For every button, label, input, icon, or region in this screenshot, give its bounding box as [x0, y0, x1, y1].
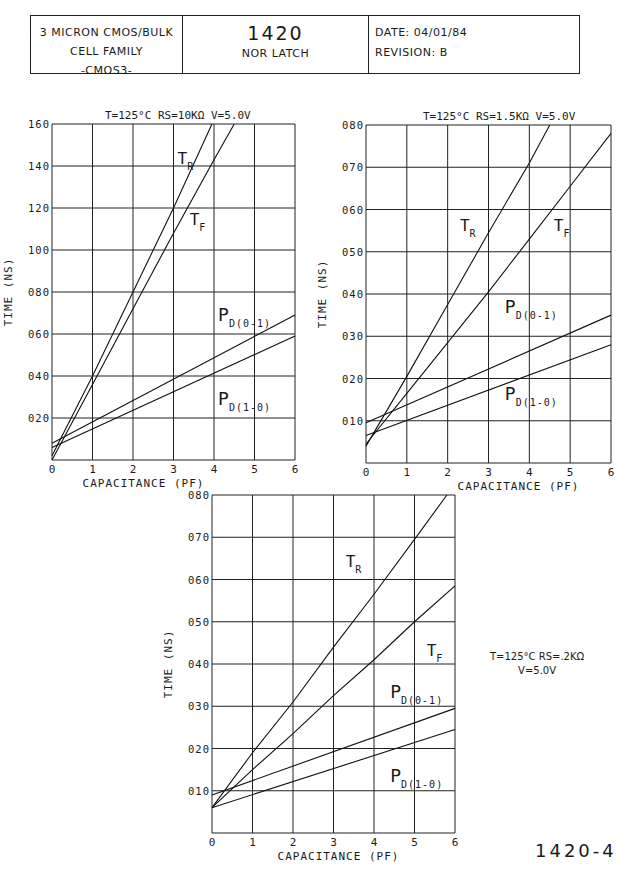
x-tick-label: 1 — [89, 463, 96, 476]
chart-3: 0123456010020030040050060070080TRTFPD(0-… — [162, 489, 458, 863]
x-tick-label: 5 — [567, 466, 574, 479]
chart-title: T=125°C RS=1.5KΩ V=5.0V — [423, 110, 576, 123]
y-tick-label: 080 — [188, 489, 210, 501]
y-tick-label: 030 — [342, 330, 364, 342]
y-tick-label: 040 — [342, 288, 364, 300]
curve-label: TF — [554, 216, 571, 239]
x-tick-label: 3 — [485, 466, 492, 479]
y-tick-label: 070 — [188, 531, 210, 543]
y-tick-label: 050 — [342, 246, 364, 258]
chart-1: 0123456020040060080100120140160TRTFPD(0-… — [2, 109, 298, 490]
y-tick-label: 020 — [188, 743, 210, 755]
x-tick-label: 6 — [292, 463, 299, 476]
curve-label: TF — [190, 210, 207, 233]
y-tick-label: 050 — [188, 616, 210, 628]
series-tr — [212, 495, 447, 808]
x-tick-label: 2 — [444, 466, 451, 479]
x-tick-label: 4 — [211, 463, 218, 476]
y-tick-label: 040 — [188, 658, 210, 670]
series-tr — [52, 124, 212, 456]
y-tick-label: 020 — [28, 412, 50, 424]
curve-label: PD(1-0) — [390, 765, 443, 790]
y-tick-label: 070 — [342, 161, 364, 173]
curve-label: PD(1-0) — [505, 383, 558, 408]
y-tick-label: 010 — [342, 415, 364, 427]
x-tick-label: 1 — [249, 836, 256, 849]
chart3-conditions: T=125°C RS=.2KΩ V=5.0V — [490, 650, 584, 678]
y-tick-label: 140 — [28, 160, 50, 172]
y-tick-label: 060 — [28, 328, 50, 340]
x-tick-label: 0 — [363, 466, 370, 479]
curve-label: PD(0-1) — [218, 304, 271, 329]
x-tick-label: 1 — [404, 466, 411, 479]
y-tick-label: 080 — [342, 119, 364, 131]
x-tick-label: 2 — [290, 836, 297, 849]
curve-label: PD(1-0) — [218, 388, 271, 413]
curve-label: PD(0-1) — [505, 296, 558, 321]
y-tick-label: 160 — [28, 118, 50, 130]
x-tick-label: 6 — [608, 466, 615, 479]
curve-label: TF — [427, 641, 444, 664]
chart3-condition-line2: V=5.0V — [490, 664, 584, 678]
y-tick-label: 030 — [188, 700, 210, 712]
x-tick-label: 5 — [251, 463, 258, 476]
chart-title: T=125°C RS=10KΩ V=5.0V — [105, 109, 251, 122]
x-axis-label: CAPACITANCE (PF) — [278, 850, 400, 863]
y-tick-label: 100 — [28, 244, 50, 256]
y-tick-label: 080 — [28, 286, 50, 298]
y-tick-label: 120 — [28, 202, 50, 214]
y-tick-label: 010 — [188, 785, 210, 797]
x-tick-label: 3 — [330, 836, 337, 849]
x-tick-label: 4 — [526, 466, 533, 479]
y-tick-label: 040 — [28, 370, 50, 382]
page-code: 1420-4 — [535, 840, 617, 861]
x-tick-label: 2 — [130, 463, 137, 476]
curve-label: TR — [178, 149, 195, 172]
chart3-condition-line1: T=125°C RS=.2KΩ — [490, 650, 584, 664]
curve-label: TR — [346, 552, 363, 575]
x-tick-label: 6 — [452, 836, 459, 849]
curve-label: PD(0-1) — [390, 681, 443, 706]
y-axis-label: TIME (NS) — [2, 258, 15, 327]
x-tick-label: 3 — [170, 463, 177, 476]
x-axis-label: CAPACITANCE (PF) — [458, 480, 580, 493]
x-tick-label: 4 — [371, 836, 378, 849]
y-axis-label: TIME (NS) — [162, 630, 175, 699]
curve-label: TR — [460, 216, 477, 239]
x-tick-label: 0 — [49, 463, 56, 476]
y-tick-label: 020 — [342, 373, 364, 385]
charts-canvas: 0123456020040060080100120140160TRTFPD(0-… — [0, 0, 634, 883]
y-tick-label: 060 — [342, 204, 364, 216]
chart-2: 0123456010020030040050060070080TRTFPD(0-… — [316, 110, 614, 493]
x-tick-label: 0 — [209, 836, 216, 849]
y-axis-label: TIME (NS) — [316, 260, 329, 329]
x-tick-label: 5 — [411, 836, 418, 849]
y-tick-label: 060 — [188, 574, 210, 586]
x-axis-label: CAPACITANCE (PF) — [83, 477, 205, 490]
